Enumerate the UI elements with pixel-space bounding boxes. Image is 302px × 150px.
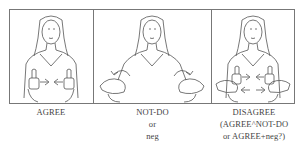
caption-line: DISAGREE bbox=[212, 106, 296, 118]
caption-not-do: NOT-DO or neg bbox=[94, 106, 211, 142]
disagree-sign-illustration bbox=[212, 10, 294, 103]
caption-line: or bbox=[94, 118, 211, 130]
caption-line: or AGREE+neg?) bbox=[212, 130, 296, 142]
caption-line: neg bbox=[94, 130, 211, 142]
caption-line: AGREE bbox=[9, 106, 93, 118]
not-do-sign-illustration bbox=[94, 10, 211, 103]
agree-sign-illustration bbox=[10, 10, 93, 103]
caption-line: NOT-DO bbox=[94, 106, 211, 118]
caption-disagree: DISAGREE (AGREE^NOT-DO or AGREE+neg?) bbox=[212, 106, 296, 142]
caption-agree: AGREE bbox=[9, 106, 93, 118]
caption-line: (AGREE^NOT-DO bbox=[212, 118, 296, 130]
panel-disagree bbox=[212, 10, 294, 103]
panel-agree bbox=[10, 10, 93, 103]
panel-not-do bbox=[94, 10, 211, 103]
